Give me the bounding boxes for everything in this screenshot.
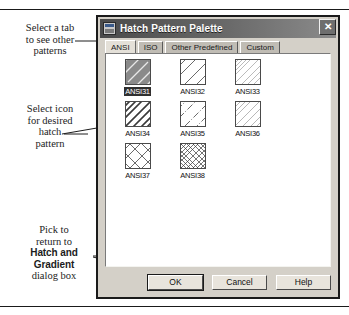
pattern-swatch-ansi32 — [180, 59, 206, 85]
pattern-swatch-ansi31 — [125, 59, 151, 85]
callout-line: hatch — [2, 126, 98, 138]
ok-button[interactable]: OK — [148, 275, 203, 290]
pattern-label: ANSI35 — [179, 129, 206, 138]
tab-strip: ANSI ISO Other Predefined Custom — [105, 40, 331, 53]
help-button[interactable]: Help — [276, 275, 331, 290]
callout-line: to see other — [4, 34, 96, 46]
tab-other-predefined[interactable]: Other Predefined — [165, 41, 238, 53]
pattern-label: ANSI37 — [124, 171, 151, 180]
callout-line: dialog box — [2, 270, 106, 282]
dialog-title: Hatch Pattern Palette — [120, 23, 223, 34]
page-rule-bottom — [0, 306, 349, 307]
pattern-label: ANSI31 — [124, 87, 151, 96]
pattern-swatch-ansi38 — [180, 143, 206, 169]
pattern-swatch-ansi36 — [235, 101, 261, 127]
pattern-item-ansi38[interactable]: ANSI38 — [165, 143, 220, 180]
callout-pick-ok: Pick to return to Hatch and Gradient dia… — [2, 224, 106, 282]
callout-line: for desired — [2, 115, 98, 127]
cancel-button[interactable]: Cancel — [212, 275, 267, 290]
pattern-label: ANSI34 — [124, 129, 151, 138]
tab-ansi[interactable]: ANSI — [105, 40, 136, 53]
pattern-label: ANSI32 — [179, 87, 206, 96]
callout-line: return to — [2, 236, 106, 248]
dialog-titlebar[interactable]: Hatch Pattern Palette — [100, 19, 336, 38]
pattern-item-ansi33[interactable]: ANSI33 — [220, 59, 275, 96]
pattern-item-ansi34[interactable]: ANSI34 — [110, 101, 165, 138]
pattern-item-ansi32[interactable]: ANSI32 — [165, 59, 220, 96]
pattern-grid: ANSI31 ANSI32 — [110, 59, 326, 185]
callout-line: Select a tab — [4, 22, 96, 34]
pattern-item-ansi37[interactable]: ANSI37 — [110, 143, 165, 180]
pattern-swatch-ansi35 — [180, 101, 206, 127]
callout-line: Select icon — [2, 103, 98, 115]
callout-line-bold: Gradient — [2, 259, 106, 271]
pattern-label: ANSI38 — [179, 171, 206, 180]
callout-line: patterns — [4, 45, 96, 57]
dialog-button-bar: OK Cancel Help — [105, 272, 331, 292]
pattern-swatch-ansi33 — [235, 59, 261, 85]
pattern-label: ANSI36 — [234, 129, 261, 138]
pattern-item-ansi31[interactable]: ANSI31 — [110, 59, 165, 96]
pattern-item-ansi35[interactable]: ANSI35 — [165, 101, 220, 138]
close-icon[interactable]: ✕ — [319, 19, 336, 35]
callout-line-bold: Hatch and — [2, 247, 106, 259]
callout-select-tab: Select a tab to see other patterns — [4, 22, 96, 57]
callout-select-icon: Select icon for desired hatch pattern — [2, 103, 98, 149]
pattern-item-ansi36[interactable]: ANSI36 — [220, 101, 275, 138]
pattern-list-panel[interactable]: ANSI31 ANSI32 — [105, 53, 331, 267]
tab-iso[interactable]: ISO — [138, 41, 164, 53]
pattern-swatch-ansi37 — [125, 143, 151, 169]
pattern-label: ANSI33 — [234, 87, 261, 96]
hatch-pattern-palette-dialog: Hatch Pattern Palette ✕ ANSI ISO Other P… — [96, 15, 340, 299]
tab-custom[interactable]: Custom — [240, 41, 280, 53]
callout-line: Pick to — [2, 224, 106, 236]
hatch-palette-icon — [103, 22, 116, 35]
callout-line: pattern — [2, 138, 98, 150]
page-rule-top — [0, 9, 349, 10]
pattern-swatch-ansi34 — [125, 101, 151, 127]
